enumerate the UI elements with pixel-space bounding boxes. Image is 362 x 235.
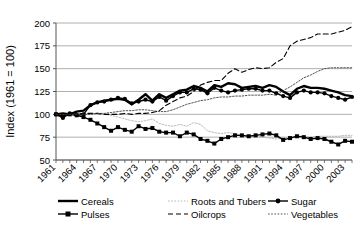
data-point <box>88 103 92 107</box>
legend-label: Pulses <box>81 209 110 220</box>
chart-container: 5075100125150175200 19611964196719701973… <box>0 0 362 235</box>
data-point <box>143 98 147 102</box>
data-point <box>102 99 106 103</box>
data-point <box>123 97 127 101</box>
data-point <box>233 88 237 92</box>
legend-marker <box>66 212 71 217</box>
data-point <box>150 99 154 103</box>
data-point <box>205 91 209 95</box>
y-axis-title: Index (1961 = 100) <box>4 45 16 138</box>
data-point <box>219 88 223 92</box>
data-point <box>322 91 326 95</box>
data-point <box>205 139 209 143</box>
data-point <box>116 125 120 129</box>
data-point <box>198 88 202 92</box>
data-point <box>109 129 113 133</box>
legend-label: Roots and Tubers <box>191 196 266 207</box>
data-point <box>95 121 99 125</box>
x-tick-label: 1973 <box>117 162 140 185</box>
data-point <box>219 137 223 141</box>
x-tick-label: 1988 <box>221 162 244 185</box>
x-tick-label: 2003 <box>324 162 347 185</box>
data-point <box>123 128 127 132</box>
x-tick-label: 1994 <box>262 162 285 185</box>
data-point <box>157 95 161 99</box>
data-point <box>185 90 189 94</box>
data-point <box>254 87 258 91</box>
x-tick-label: 1982 <box>179 162 202 185</box>
data-point <box>109 98 113 102</box>
data-point <box>102 125 106 129</box>
data-point <box>247 134 251 138</box>
data-point <box>316 136 320 140</box>
data-point <box>288 96 292 100</box>
y-tick-label: 200 <box>34 18 50 29</box>
data-point <box>185 131 189 135</box>
data-point <box>343 139 347 143</box>
y-tick-label: 125 <box>34 86 50 97</box>
y-axis-title-label: Index (1961 = 100) <box>4 45 16 138</box>
legend-item-roots-and-tubers[interactable]: Roots and Tubers <box>168 196 266 207</box>
data-point <box>281 138 285 142</box>
data-point <box>240 133 244 137</box>
x-tick-label: 1997 <box>283 162 306 185</box>
data-point <box>212 142 216 146</box>
data-point <box>309 90 313 94</box>
data-point <box>226 90 230 94</box>
data-point <box>130 101 134 105</box>
data-point <box>116 96 120 100</box>
legend-marker <box>276 199 281 204</box>
data-point <box>302 135 306 139</box>
legend-label: Vegetables <box>291 209 338 220</box>
data-point <box>343 98 347 102</box>
legend-item-sugar[interactable]: Sugar <box>268 196 316 207</box>
data-point <box>315 90 319 94</box>
data-point <box>233 133 237 137</box>
data-point <box>247 87 251 91</box>
x-tick-label: 1979 <box>159 162 182 185</box>
x-tick-label: 2000 <box>303 162 326 185</box>
data-point <box>267 132 271 136</box>
x-tick-label: 1970 <box>97 162 120 185</box>
data-point <box>150 126 154 130</box>
x-tick-label: 1964 <box>55 162 78 185</box>
data-point <box>274 133 278 137</box>
legend-item-vegetables[interactable]: Vegetables <box>268 209 338 220</box>
x-tick-label: 1967 <box>76 162 99 185</box>
data-point <box>336 96 340 100</box>
data-point <box>137 124 141 128</box>
data-point <box>309 137 313 141</box>
chart-legend: CerealsRoots and TubersSugarPulsesOilcro… <box>58 196 338 220</box>
y-tick-label: 100 <box>34 109 50 120</box>
data-point <box>322 137 326 141</box>
data-point <box>288 136 292 140</box>
data-point <box>261 132 265 136</box>
data-point <box>295 134 299 138</box>
data-point <box>240 88 244 92</box>
data-point <box>267 88 271 92</box>
data-point <box>95 100 99 104</box>
data-point <box>178 134 182 138</box>
data-point <box>143 127 147 131</box>
data-point <box>260 88 264 92</box>
data-point <box>130 130 134 134</box>
x-tick-label: 1991 <box>241 162 264 185</box>
y-axis: 5075100125150175200 <box>34 18 56 166</box>
data-point <box>157 130 161 134</box>
data-point <box>302 88 306 92</box>
y-tick-label: 75 <box>39 132 50 143</box>
data-point <box>254 133 258 137</box>
data-point <box>137 99 141 103</box>
data-point <box>192 132 196 136</box>
x-axis: 1961196419671970197319761979198219851988… <box>35 160 352 184</box>
y-tick-label: 175 <box>34 40 50 51</box>
legend-item-cereals[interactable]: Cereals <box>58 196 114 207</box>
data-point <box>164 131 168 135</box>
legend-label: Oilcrops <box>191 209 226 220</box>
data-point <box>171 131 175 135</box>
data-point <box>329 140 333 144</box>
data-point <box>171 94 175 98</box>
legend-item-pulses[interactable]: Pulses <box>58 209 110 220</box>
legend-item-oilcrops[interactable]: Oilcrops <box>168 209 226 220</box>
data-point <box>212 86 216 90</box>
